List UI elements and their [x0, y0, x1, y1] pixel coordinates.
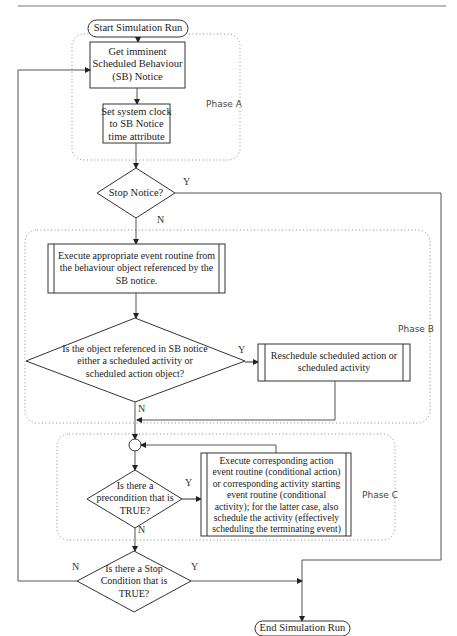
- execute-conditional-text: Execute corresponding action event routi…: [207, 455, 346, 535]
- phase-a-label: Phase A: [206, 99, 242, 109]
- precondition-text: Is there a precondition that is TRUE?: [95, 480, 175, 517]
- reschedule-text: Reschedule scheduled action or scheduled…: [265, 350, 403, 375]
- start-label: Start Simulation Run: [88, 22, 188, 34]
- phase-b-label: Phase B: [398, 324, 434, 334]
- stop-notice-no-label: N: [157, 214, 164, 225]
- is-scheduled-text: Is the object referenced in SB notice ei…: [45, 343, 225, 380]
- is-scheduled-no-label: N: [138, 403, 145, 414]
- stop-condition-text: Is there a Stop Condition that is TRUE?: [92, 563, 176, 600]
- connector-circle: [129, 439, 141, 451]
- is-scheduled-yes-label: Y: [238, 344, 245, 355]
- stop-notice-text: Stop Notice?: [97, 187, 175, 199]
- flowchart-graphics: [0, 0, 457, 636]
- get-notice-text: Get imminent Scheduled Behaviour (SB) No…: [90, 46, 185, 83]
- stop-condition-yes-label: Y: [191, 561, 198, 572]
- precondition-no-label: N: [138, 524, 145, 535]
- precondition-yes-label: Y: [185, 477, 192, 488]
- set-clock-text: Set system clock to SB Notice time attri…: [101, 106, 172, 143]
- execute-event-text: Execute appropriate event routine from t…: [54, 250, 219, 287]
- flowchart: Start Simulation Run Get imminent Schedu…: [0, 0, 457, 636]
- phase-c-label: Phase C: [362, 490, 398, 500]
- stop-notice-yes-label: Y: [183, 176, 190, 187]
- stop-condition-no-label: N: [72, 561, 79, 572]
- end-label: End Simulation Run: [255, 622, 350, 634]
